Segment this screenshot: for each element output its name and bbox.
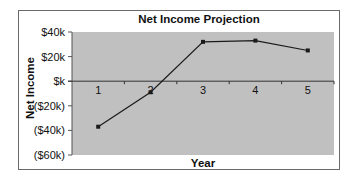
x-tick-label: 3 <box>200 84 206 96</box>
data-point-marker <box>96 125 100 129</box>
y-tick-label: $k <box>53 75 65 87</box>
x-tick-label: 4 <box>252 84 258 96</box>
x-tick-label: 1 <box>95 84 101 96</box>
x-tick-label: 5 <box>305 84 311 96</box>
y-tick-label: ($60k) <box>34 149 65 161</box>
y-tick-label: ($40k) <box>34 124 65 136</box>
plot-area: $40k$20k$k($20k)($40k)($60k) 12345 <box>0 0 354 174</box>
y-tick-label: ($20k) <box>34 100 65 112</box>
data-point-marker <box>201 40 205 44</box>
data-point-marker <box>149 90 153 94</box>
y-axis-ticks: $40k$20k$k($20k)($40k)($60k) <box>34 26 72 161</box>
y-tick-label: $20k <box>41 51 65 63</box>
y-tick-label: $40k <box>41 26 65 38</box>
data-point-marker <box>306 48 310 52</box>
data-point-marker <box>253 39 257 43</box>
